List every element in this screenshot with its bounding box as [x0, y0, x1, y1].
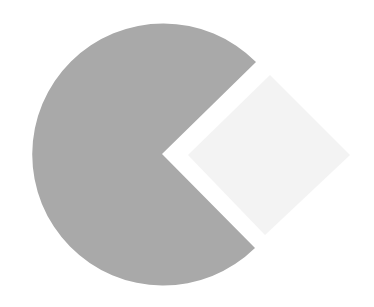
pie-chart-canvas: [0, 0, 374, 307]
pie-chart: [0, 0, 374, 307]
